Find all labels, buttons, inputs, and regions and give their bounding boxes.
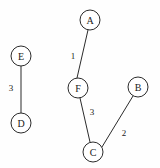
graph-diagram: 1323 AEBFDC (0, 0, 160, 168)
node-label-e: E (18, 51, 24, 62)
graph-node-b[interactable]: B (128, 77, 148, 97)
node-label-a: A (86, 15, 94, 26)
graph-canvas: 1323 AEBFDC (0, 0, 160, 168)
graph-node-f[interactable]: F (68, 78, 88, 98)
node-label-b: B (135, 82, 142, 93)
graph-node-e[interactable]: E (11, 46, 31, 66)
graph-edge-a-f (77, 30, 88, 78)
node-label-d: D (17, 118, 24, 129)
edge-weight-label-c-b: 2 (122, 128, 127, 138)
node-label-c: C (90, 147, 97, 158)
edge-weight-label-f-c: 3 (90, 107, 95, 117)
graph-edge-c-b (102, 96, 133, 147)
node-label-f: F (75, 83, 81, 94)
graph-node-d[interactable]: D (11, 113, 31, 133)
edge-weight-label-e-d: 3 (9, 83, 14, 93)
edge-weight-label-a-f: 1 (71, 51, 76, 61)
nodes-group: AEBFDC (11, 10, 148, 162)
graph-node-a[interactable]: A (80, 10, 100, 30)
graph-edge-f-c (80, 98, 90, 142)
graph-node-c[interactable]: C (83, 142, 103, 162)
